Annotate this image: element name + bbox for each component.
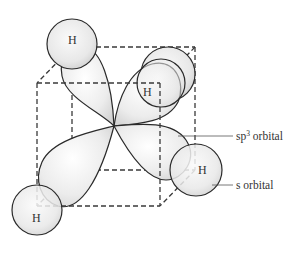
h-sphere-right: [170, 144, 222, 196]
h-sphere-bottom-left: [12, 185, 62, 235]
label-sp3-base: sp: [236, 130, 246, 143]
h-label-top-left: H: [68, 33, 77, 47]
label-sp3-orbital: sp3 orbital: [236, 129, 283, 143]
h-label-right: H: [198, 163, 207, 177]
label-sp3-suffix: orbital: [250, 130, 283, 142]
h-label-bottom-left: H: [32, 211, 41, 225]
sp3-orbital-diagram: H H H H sp3 orbital s orbital: [0, 0, 290, 253]
label-s-orbital: s orbital: [236, 179, 273, 191]
h-label-upper-right: H: [143, 85, 152, 99]
